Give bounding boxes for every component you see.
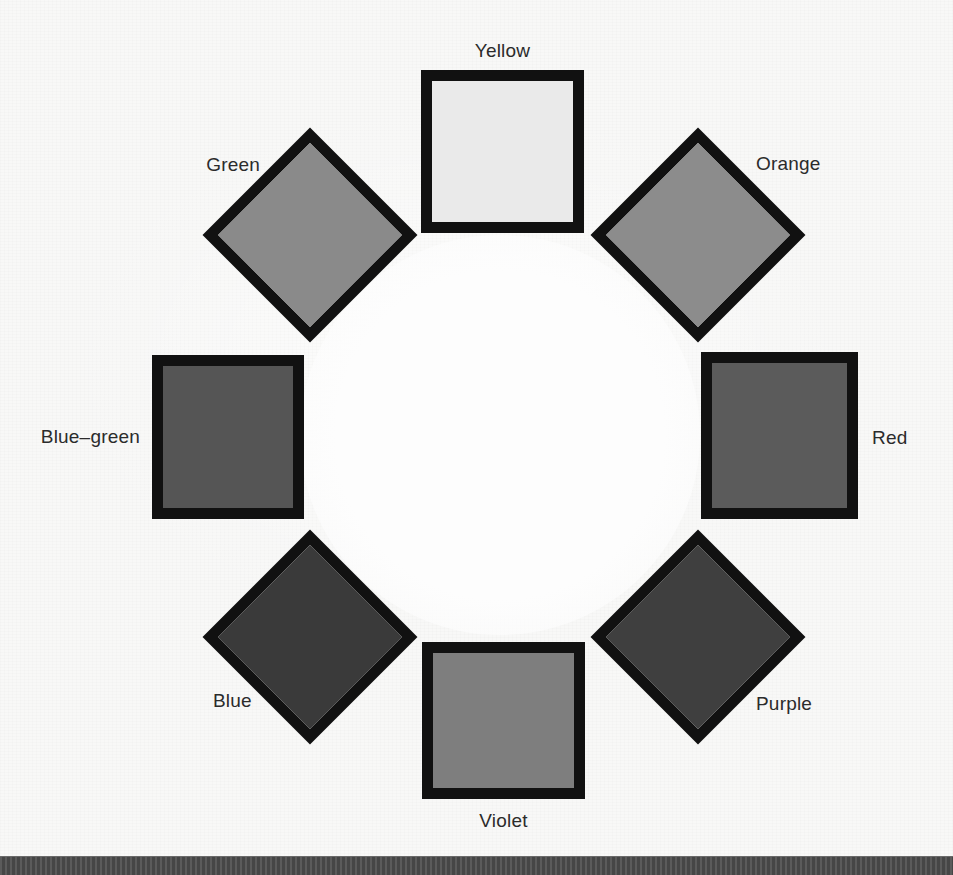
figure-canvas: Yellow Orange Red Purple Violet Blue Blu… [0,0,953,875]
swatch-label-violet: Violet [422,810,585,832]
ring-center-field [300,235,700,635]
swatch-label-green: Green [140,154,260,176]
bottom-bar [0,856,953,875]
swatch-violet-fill [433,653,574,788]
swatch-label-yellow: Yellow [421,40,584,62]
swatch-label-blue-green: Blue–green [0,426,140,448]
swatch-label-purple: Purple [756,693,812,715]
swatch-label-orange: Orange [756,153,821,175]
swatch-label-red: Red [872,427,907,449]
swatch-red[interactable] [701,352,858,519]
swatch-label-blue: Blue [213,690,252,712]
swatch-red-fill [712,363,847,508]
swatch-blue-green-fill [163,366,293,508]
swatch-yellow-fill [432,81,573,222]
swatch-yellow[interactable] [421,70,584,233]
swatch-blue[interactable] [203,530,418,745]
swatch-violet[interactable] [422,642,585,799]
swatch-blue-green[interactable] [152,355,304,519]
